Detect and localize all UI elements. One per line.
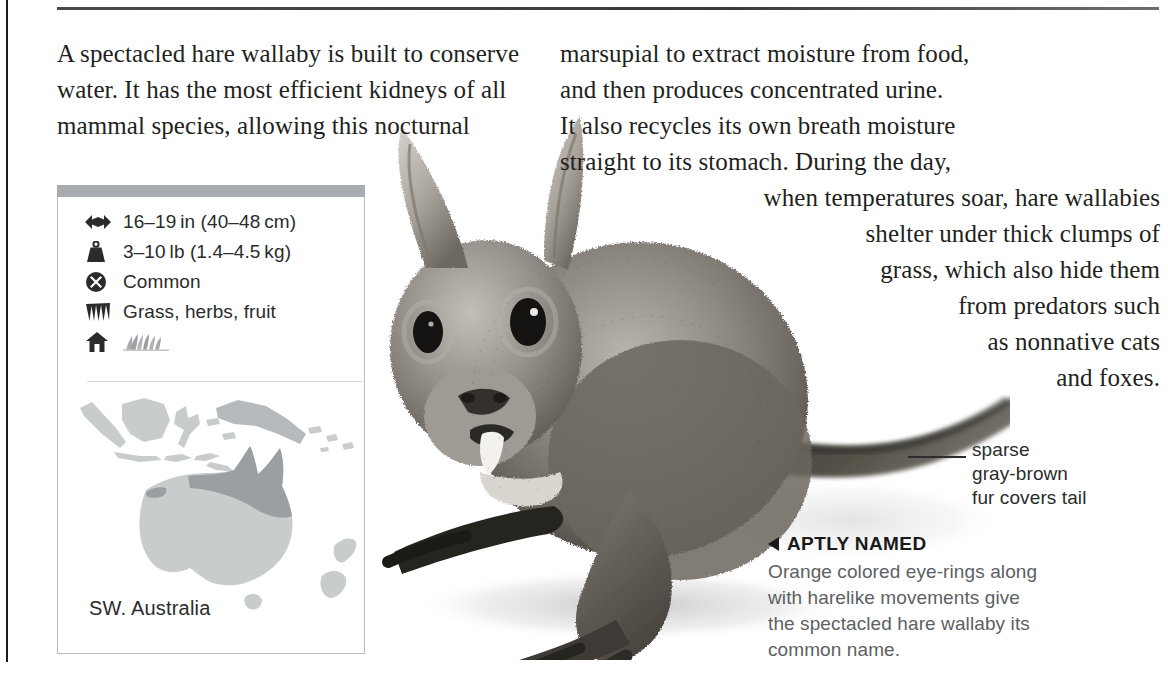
tail-callout-line-2: gray-brown xyxy=(972,462,1162,486)
page-top-rule xyxy=(57,7,1159,10)
aptly-named-caption: APTLY NAMED Orange colored eye-rings alo… xyxy=(768,533,1098,663)
body-text-left-column: A spectacled hare wallaby is built to co… xyxy=(57,36,527,144)
caption-body-line-4: common name. xyxy=(768,637,1098,663)
map-landmasses xyxy=(80,398,356,610)
fact-status-value: Common xyxy=(123,271,201,293)
body-text-right-line-7: grass, which also hide them xyxy=(560,252,1160,288)
body-text-right-line-10: and foxes. xyxy=(560,360,1160,396)
diet-grass-icon xyxy=(85,299,115,325)
size-arrows-icon xyxy=(85,209,115,235)
tail-callout-label: sparse gray-brown fur covers tail xyxy=(972,438,1162,510)
fact-row-status: Common xyxy=(85,267,361,297)
body-text-right-line-6: shelter under thick clumps of xyxy=(560,216,1160,252)
page-left-rule xyxy=(6,0,8,662)
tail-callout-line-3: fur covers tail xyxy=(972,486,1162,510)
body-text-right-line-8: from predators such xyxy=(560,288,1160,324)
body-text-left-line-2: water. It has the most efficient kidneys… xyxy=(57,76,506,103)
caption-body-line-2: with harelike movements give xyxy=(768,585,1098,611)
weight-icon xyxy=(85,239,115,265)
body-text-right-line-1: marsupial to extract moisture from food, xyxy=(560,36,1160,72)
fact-row-size: 16–19 in (40–48 cm) xyxy=(85,207,361,237)
fact-row-diet: Grass, herbs, fruit xyxy=(85,297,361,327)
body-text-right-line-2: and then produces concentrated urine. xyxy=(560,72,1160,108)
species-fact-list: 16–19 in (40–48 cm) 3–10 lb (1.4–4.5 kg)… xyxy=(85,207,361,357)
body-text-right-column: marsupial to extract moisture from food,… xyxy=(560,36,1160,396)
map-region-label: SW. Australia xyxy=(89,597,211,620)
body-text-right-line-4: straight to its stomach. During the day, xyxy=(560,144,1160,180)
distribution-map xyxy=(70,390,362,620)
body-text-left-line-3: mammal species, allowing this nocturnal xyxy=(57,112,470,139)
fact-diet-value: Grass, herbs, fruit xyxy=(123,301,276,323)
tail-callout-line-1: sparse xyxy=(972,438,1162,462)
status-circle-x-icon xyxy=(85,269,115,295)
body-text-right-line-9: as nonnative cats xyxy=(560,324,1160,360)
caption-heading: APTLY NAMED xyxy=(787,533,927,555)
caption-heading-row: APTLY NAMED xyxy=(768,533,1098,555)
fact-row-habitat xyxy=(85,327,361,357)
caption-body-line-3: the spectacled hare wallaby its xyxy=(768,611,1098,637)
habitat-house-icon xyxy=(85,329,115,355)
species-info-panel-header-bar xyxy=(57,185,365,197)
grassland-icon xyxy=(123,329,169,355)
fact-weight-value: 3–10 lb (1.4–4.5 kg) xyxy=(123,241,291,263)
panel-divider xyxy=(87,381,363,382)
tail-callout-leader-line xyxy=(908,456,966,458)
body-text-right-line-3: It also recycles its own breath moisture xyxy=(560,108,1160,144)
caption-body: Orange colored eye-rings along with hare… xyxy=(768,559,1098,663)
body-text-left-line-1: A spectacled hare wallaby is built to co… xyxy=(57,40,519,67)
caption-body-line-1: Orange colored eye-rings along xyxy=(768,559,1098,585)
page-root: A spectacled hare wallaby is built to co… xyxy=(0,0,1168,690)
body-text-right-line-5: when temperatures soar, hare wallabies xyxy=(560,180,1160,216)
fact-row-weight: 3–10 lb (1.4–4.5 kg) xyxy=(85,237,361,267)
left-triangle-icon xyxy=(768,537,779,551)
fact-size-value: 16–19 in (40–48 cm) xyxy=(123,211,296,233)
